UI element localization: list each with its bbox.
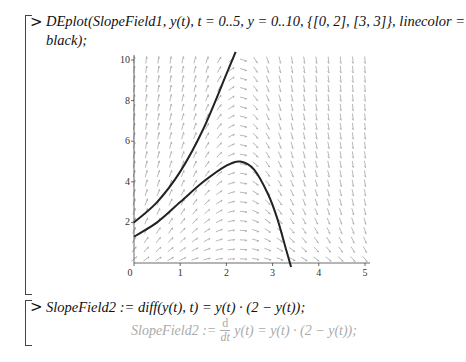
- svg-text:4: 4: [125, 176, 130, 187]
- svg-text:6: 6: [125, 135, 130, 146]
- svg-text:3: 3: [270, 267, 275, 278]
- direction-field-arrows: [131, 57, 367, 262]
- execution-group-bracket-1: [25, 15, 26, 295]
- output-rhs: y(t) = y(t) · (2 − y(t));: [234, 323, 357, 339]
- svg-text:2: 2: [224, 267, 229, 278]
- svg-text:5: 5: [363, 267, 368, 278]
- command-output-2: SlopeField2 := d dt y(t) = y(t) · (2 − y…: [131, 317, 357, 344]
- svg-text:0: 0: [128, 267, 133, 278]
- svg-text:8: 8: [125, 95, 130, 106]
- svg-text:4: 4: [316, 267, 321, 278]
- derivative-operator: d dt: [220, 317, 230, 344]
- input-prompt-1: >: [30, 13, 43, 31]
- solution-curves: [134, 52, 291, 267]
- command-line-1: DEplot(SlopeField1, y(t), t = 0..5, y = …: [46, 12, 465, 31]
- execution-group-bracket-2: [25, 300, 26, 346]
- output-lhs: SlopeField2 :=: [131, 323, 216, 339]
- axis-ticks: 012345246810: [120, 54, 368, 278]
- input-prompt-2: >: [30, 298, 43, 316]
- svg-text:2: 2: [125, 216, 130, 227]
- slope-field-plot[interactable]: 012345246810: [100, 45, 380, 280]
- svg-text:10: 10: [120, 54, 130, 65]
- svg-text:1: 1: [178, 267, 183, 278]
- command-input-2[interactable]: SlopeField2 := diff(y(t), t) = y(t) · (2…: [46, 298, 305, 317]
